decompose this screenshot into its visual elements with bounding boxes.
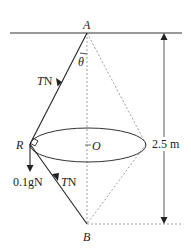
dimension-arrow-bottom-icon [161,217,168,224]
weight-arrow-icon [27,165,34,172]
point-label-O: O [92,139,101,153]
tension-label-lower: TN [61,175,77,189]
dimension-arrow-top-icon [161,33,168,40]
theta-marker [80,53,87,54]
string-AR [30,33,87,144]
tension-arrow-upper-icon [56,78,62,87]
diagram-canvas: A θ TN R O 2.5 m 0.1gN TN B [0,0,191,251]
angle-label-theta: θ [78,55,84,69]
point-label-A: A [82,18,91,32]
weight-label: 0.1gN [13,175,43,189]
cone-right-upper-dashed [87,33,146,144]
conical-pendulum-diagram: A θ TN R O 2.5 m 0.1gN TN B [0,0,191,251]
point-label-B: B [83,230,91,244]
cone-right-lower-dashed [87,144,146,224]
dimension-label: 2.5 m [152,137,180,151]
tension-label-upper: TN [37,74,53,88]
point-label-R: R [15,138,24,152]
